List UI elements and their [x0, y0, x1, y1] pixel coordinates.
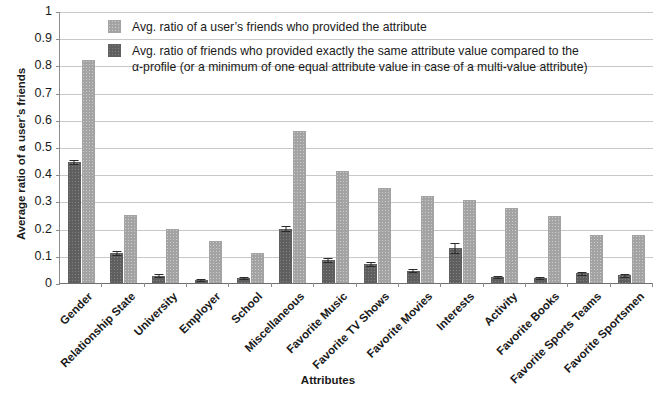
y-tick-label: 0: [8, 276, 52, 290]
bar-same-value-ratio: [279, 229, 292, 283]
bar-group: [60, 12, 102, 283]
bar-provided-attribute-ratio: [166, 229, 179, 283]
y-tick-label: 0.6: [8, 113, 52, 127]
y-tick-label: 1: [8, 4, 52, 18]
y-tick-label: 0.1: [8, 249, 52, 263]
x-axis-tick-labels: GenderRelationship StateUniversityEmploy…: [59, 286, 653, 386]
error-bar-cap-upper: [578, 272, 587, 273]
bar-same-value-ratio: [491, 277, 504, 283]
chart-legend: Avg. ratio of a user’s friends who provi…: [108, 19, 638, 83]
error-bar-cap-lower: [70, 164, 79, 165]
error-bar-cap-upper: [493, 276, 502, 277]
error-bar-cap-lower: [112, 255, 121, 256]
x-tick-label: Employer: [176, 290, 222, 336]
legend-label: Avg. ratio of a user’s friends who provi…: [132, 19, 427, 36]
error-bar: [455, 243, 456, 253]
error-bar-cap-lower: [366, 266, 375, 267]
bar-provided-attribute-ratio: [378, 188, 391, 283]
error-bar-cap-lower: [578, 275, 587, 276]
y-tick-label: 0.3: [8, 194, 52, 208]
bar-provided-attribute-ratio: [505, 208, 518, 283]
error-bar-cap-upper: [197, 279, 206, 280]
error-bar-cap-upper: [154, 274, 163, 275]
y-tick-label: 0.7: [8, 86, 52, 100]
error-bar-cap-lower: [154, 277, 163, 278]
bar-same-value-ratio: [195, 280, 208, 283]
bar-same-value-ratio: [576, 273, 589, 283]
bar-provided-attribute-ratio: [124, 215, 137, 283]
y-tick-label: 0.8: [8, 58, 52, 72]
y-tick-label: 0.9: [8, 31, 52, 45]
x-tick-label: Gender: [58, 290, 95, 327]
y-tick-mark: [56, 284, 60, 285]
bar-chart: Average ratio of a user’s friends 10.90.…: [0, 0, 656, 400]
error-bar-cap-lower: [409, 272, 418, 273]
legend-item: Avg. ratio of a user’s friends who provi…: [108, 19, 638, 36]
bar-same-value-ratio: [618, 275, 631, 283]
x-tick-label: University: [132, 290, 180, 338]
bar-same-value-ratio: [152, 276, 165, 283]
x-tick-label: Relationship State: [58, 290, 137, 369]
error-bar-cap-lower: [536, 279, 545, 280]
bar-provided-attribute-ratio: [209, 241, 222, 283]
error-bar-cap-upper: [324, 258, 333, 259]
bar-provided-attribute-ratio: [463, 200, 476, 283]
error-bar-cap-upper: [281, 226, 290, 227]
error-bar-cap-upper: [366, 262, 375, 263]
y-tick-label: 0.4: [8, 167, 52, 181]
error-bar-cap-lower: [620, 277, 629, 278]
y-tick-label: 0.2: [8, 222, 52, 236]
x-axis-title: Attributes: [0, 374, 656, 386]
error-bar-cap-lower: [324, 262, 333, 263]
error-bar-cap-upper: [536, 277, 545, 278]
bar-provided-attribute-ratio: [590, 235, 603, 283]
y-tick-label: 0.5: [8, 140, 52, 154]
legend-swatch-light: [108, 20, 121, 33]
bar-same-value-ratio: [322, 260, 335, 283]
error-bar-cap-lower: [451, 253, 460, 254]
bar-provided-attribute-ratio: [421, 196, 434, 283]
bar-same-value-ratio: [534, 278, 547, 283]
error-bar-cap-lower: [281, 231, 290, 232]
bar-provided-attribute-ratio: [82, 60, 95, 283]
error-bar-cap-upper: [239, 277, 248, 278]
x-tick-label: Favorite TV Shows: [310, 290, 391, 371]
x-tick-label: School: [229, 290, 265, 326]
bar-provided-attribute-ratio: [251, 253, 264, 283]
bar-same-value-ratio: [237, 278, 250, 283]
error-bar-cap-upper: [112, 251, 121, 252]
x-tick-label: Interests: [434, 290, 476, 332]
error-bar-cap-lower: [197, 281, 206, 282]
x-tick-label: Activity: [481, 290, 519, 328]
error-bar-cap-lower: [493, 278, 502, 279]
bar-provided-attribute-ratio: [293, 131, 306, 283]
legend-label: Avg. ratio of friends who provided exact…: [132, 43, 588, 76]
bar-same-value-ratio: [68, 162, 81, 283]
error-bar-cap-upper: [451, 243, 460, 244]
error-bar-cap-lower: [239, 279, 248, 280]
bar-same-value-ratio: [407, 271, 420, 283]
error-bar-cap-upper: [620, 274, 629, 275]
error-bar-cap-upper: [409, 269, 418, 270]
bar-provided-attribute-ratio: [548, 216, 561, 283]
x-tick-label: Favorite Sportsmen: [561, 290, 646, 375]
bar-provided-attribute-ratio: [632, 235, 645, 283]
legend-swatch-dark: [108, 44, 121, 57]
bar-same-value-ratio: [364, 264, 377, 283]
error-bar-cap-upper: [70, 160, 79, 161]
bar-provided-attribute-ratio: [336, 171, 349, 283]
bar-same-value-ratio: [110, 253, 123, 283]
legend-item: Avg. ratio of friends who provided exact…: [108, 43, 638, 76]
bar-same-value-ratio: [449, 248, 462, 283]
